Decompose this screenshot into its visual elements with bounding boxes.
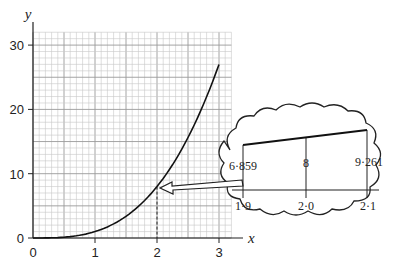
callout-x-2-0: 2·0	[298, 199, 314, 213]
callout-x-2-1: 2·1	[360, 199, 376, 213]
y-axis-label: y	[23, 6, 32, 22]
callout-y-2-0: 8	[303, 156, 309, 170]
x-tick-3: 3	[215, 245, 222, 260]
callout-y-2-1: 9·261	[355, 155, 383, 169]
y-tick-10: 10	[10, 167, 24, 182]
x-axis-label: x	[247, 230, 255, 246]
graph-paper-grid	[33, 32, 231, 238]
callout-x-1-9: 1·9	[235, 199, 251, 213]
y-tick-0: 0	[17, 231, 24, 246]
y-tick-20: 20	[10, 102, 24, 117]
x-tick-0: 0	[29, 245, 36, 260]
callout-y-1-9: 6·859	[229, 159, 257, 173]
x-tick-2: 2	[153, 245, 160, 260]
chart-canvas: 0 10 20 30 0 1 2 3 y x 6·859 8 9·261 1·9…	[0, 0, 411, 267]
x-tick-labels: 0 1 2 3	[29, 238, 222, 260]
x-tick-1: 1	[91, 245, 98, 260]
y-tick-30: 30	[10, 38, 24, 53]
y-tick-labels: 0 10 20 30	[10, 38, 33, 246]
